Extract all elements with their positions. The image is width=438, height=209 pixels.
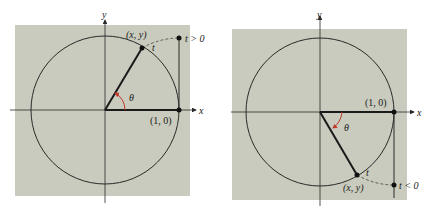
- unit-point-label: (1, 0): [150, 115, 172, 127]
- point-xy: [140, 46, 145, 51]
- panel-background: [232, 29, 407, 200]
- theta-label: θ: [129, 92, 134, 103]
- point-xy-label: (x, y): [343, 182, 364, 194]
- y-axis-label: y: [101, 9, 107, 20]
- x-axis-label: x: [416, 107, 422, 118]
- point-t: [177, 36, 182, 41]
- unit-circle-diagrams: x y (x, y) t t > 0 (1, 0) θ x y (x, y) t: [0, 0, 438, 209]
- point-xy: [355, 173, 360, 178]
- point-1-0: [177, 108, 182, 113]
- arc-t-label: t: [366, 167, 369, 178]
- point-xy-label: (x, y): [126, 29, 147, 41]
- arc-t-label: t: [152, 42, 155, 53]
- t-condition-label: t < 0: [399, 180, 419, 191]
- panel-positive-t: x y (x, y) t t > 0 (1, 0) θ: [10, 9, 205, 203]
- unit-point-label: (1, 0): [365, 97, 387, 109]
- y-axis-label: y: [316, 9, 322, 20]
- point-1-0: [392, 110, 397, 115]
- theta-label: θ: [344, 122, 349, 133]
- panel-negative-t: x y (x, y) t t < 0 (1, 0) θ: [231, 9, 422, 206]
- t-condition-label: t > 0: [185, 33, 205, 44]
- x-axis-label: x: [198, 105, 204, 116]
- point-t: [392, 183, 397, 188]
